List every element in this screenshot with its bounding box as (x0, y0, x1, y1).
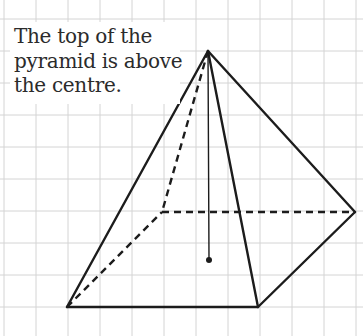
caption-line-1: The top of the (14, 24, 182, 49)
base-edge-right (258, 212, 355, 307)
caption-line-2: pyramid is above (14, 49, 182, 74)
base-centre-point (206, 257, 212, 263)
height-line (208, 51, 209, 260)
caption-text: The top of the pyramid is above the cent… (14, 24, 182, 98)
lateral-edge-back-right (208, 51, 355, 212)
caption-line-3: the centre. (14, 73, 182, 98)
hidden-base-edge-left (67, 212, 162, 307)
